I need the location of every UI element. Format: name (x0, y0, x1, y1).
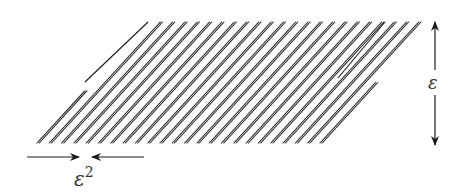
height-label: ε (428, 72, 438, 93)
strip-lines (37, 22, 421, 143)
strip-line (308, 22, 419, 143)
strip-diagram: ε2 ε (0, 0, 462, 194)
strip-line (64, 22, 175, 143)
strip-line (295, 22, 406, 143)
strip-line (52, 22, 163, 143)
strip-line (37, 91, 85, 143)
strip-line (76, 22, 187, 143)
gap-label-exponent: 2 (85, 164, 94, 180)
strip-line (39, 91, 87, 143)
gap-label: ε2 (74, 164, 94, 191)
strip-line (320, 83, 376, 144)
